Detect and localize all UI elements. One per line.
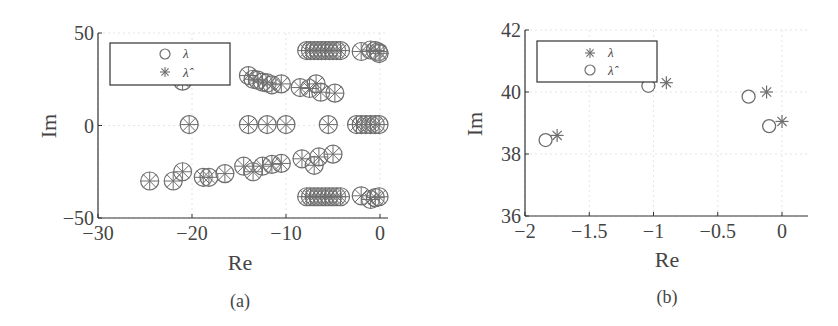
- asterisk-marker: [277, 116, 295, 134]
- x-tick-label: 0: [777, 220, 787, 242]
- panel-b: −2−1.5−1−0.5042403836 λ λ̂ Re Im (b): [462, 19, 808, 308]
- panel-b-legend: λ λ̂: [537, 41, 657, 82]
- asterisk-marker: [254, 157, 272, 175]
- asterisk-marker: [258, 116, 276, 134]
- asterisk-marker: [244, 163, 262, 181]
- asterisk-marker: [272, 75, 290, 93]
- asterisk-marker: [319, 116, 337, 134]
- y-tick-label: 42: [501, 19, 521, 41]
- asterisk-marker: [235, 157, 253, 175]
- circle-marker: [539, 134, 552, 147]
- x-tick-label: −20: [176, 222, 207, 244]
- panel-a-xlabel: Re: [228, 250, 252, 275]
- panel-b-points: [539, 76, 788, 146]
- panel-b-caption: (b): [657, 287, 678, 308]
- asterisk-marker: [366, 189, 384, 207]
- x-tick-label: 0: [375, 222, 385, 244]
- panel-a-caption: (a): [230, 291, 250, 312]
- asterisk-marker: [310, 148, 328, 166]
- legend-label-lambda: λ: [182, 46, 189, 61]
- asterisk-marker: [239, 116, 257, 134]
- figure: −30−20−100500−50 λ λ̂ Re Im (a) −2−1.5−1…: [0, 0, 838, 326]
- asterisk-marker: [312, 83, 330, 101]
- asterisk-marker: [216, 165, 234, 183]
- asterisk-marker: [180, 116, 198, 134]
- y-tick-label: −50: [63, 207, 94, 229]
- asterisk-marker: [366, 42, 384, 60]
- y-tick-label: 38: [501, 143, 521, 165]
- asterisk-marker: [272, 154, 290, 172]
- legend-label-lambda: λ: [607, 45, 614, 60]
- asterisk-marker: [371, 44, 389, 62]
- x-tick-label: −1.5: [571, 220, 607, 242]
- asterisk-marker: [141, 172, 159, 190]
- asterisk-marker: [370, 116, 388, 134]
- x-tick-label: −0.5: [700, 220, 736, 242]
- asterisk-marker: [263, 76, 281, 94]
- legend-asterisk-icon: [160, 67, 170, 77]
- asterisk-marker: [370, 188, 388, 206]
- asterisk-marker: [332, 188, 350, 206]
- panel-b-xlabel: Re: [655, 247, 679, 272]
- asterisk-marker: [324, 145, 342, 163]
- asterisk-marker: [660, 76, 673, 89]
- asterisk-marker: [291, 79, 309, 97]
- panel-a-legend: λ λ̂: [110, 43, 230, 85]
- circle-marker: [742, 90, 755, 103]
- y-tick-label: 50: [74, 22, 94, 44]
- asterisk-marker: [263, 155, 281, 173]
- x-tick-label: −10: [270, 222, 301, 244]
- y-tick-label: 36: [501, 205, 521, 227]
- circle-marker: [763, 120, 776, 133]
- asterisk-marker: [200, 168, 218, 186]
- figure-svg: −30−20−100500−50 λ λ̂ Re Im (a) −2−1.5−1…: [0, 0, 838, 326]
- asterisk-marker: [332, 42, 350, 60]
- x-tick-label: −1: [643, 220, 664, 242]
- asterisk-marker: [174, 163, 192, 181]
- panel-b-ylabel: Im: [462, 112, 487, 136]
- asterisk-marker: [776, 115, 789, 128]
- asterisk-marker: [352, 43, 370, 61]
- asterisk-marker: [326, 84, 344, 102]
- asterisk-marker: [760, 86, 773, 99]
- y-tick-label: 0: [84, 115, 94, 137]
- panel-a: −30−20−100500−50 λ λ̂ Re Im (a): [36, 22, 389, 312]
- y-tick-label: 40: [501, 81, 521, 103]
- asterisk-marker: [370, 43, 388, 61]
- legend-asterisk-icon: [585, 48, 595, 58]
- panel-a-ylabel: Im: [36, 114, 61, 138]
